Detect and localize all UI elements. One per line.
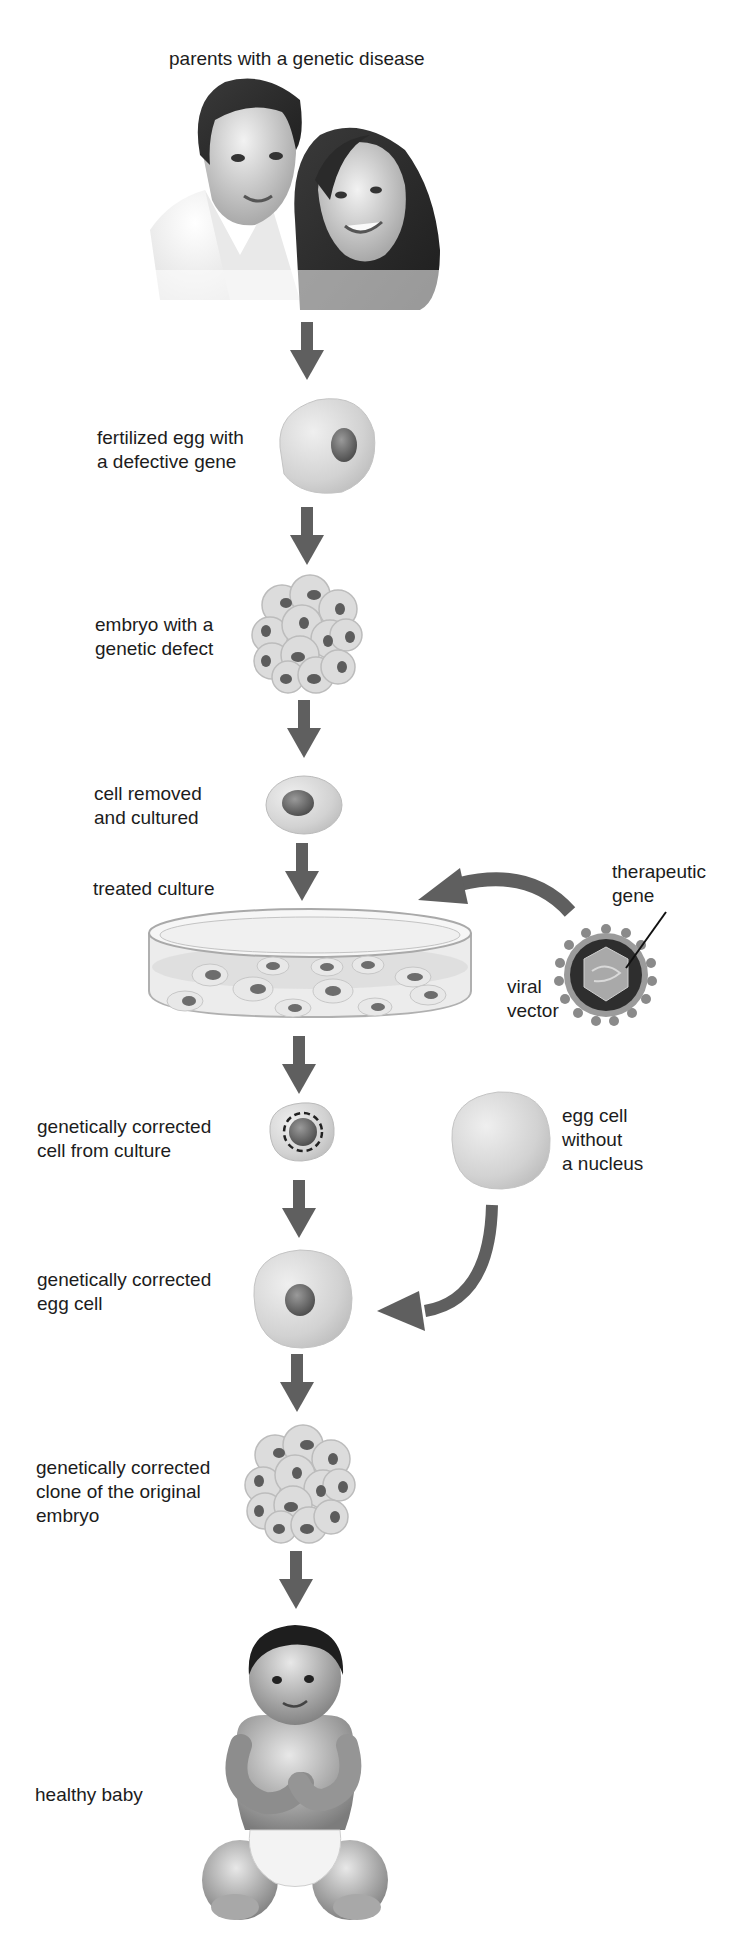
baby-portrait-icon <box>195 1615 395 1925</box>
step-label-healthy-baby: healthy baby <box>35 1783 143 1807</box>
step-label-embryo-defect: embryo with a genetic defect <box>95 613 213 661</box>
single-cell-icon <box>264 773 344 837</box>
down-arrow-icon <box>290 507 324 565</box>
enucleated-egg-label: egg cell without a nucleus <box>562 1104 643 1176</box>
step-label-corrected-cell: genetically corrected cell from culture <box>37 1115 211 1163</box>
egg-cell-with-nucleus-icon <box>272 392 382 497</box>
embryo-cluster-icon <box>245 1425 353 1540</box>
down-arrow-icon <box>279 1551 313 1609</box>
enucleated-egg-cell-icon <box>448 1088 554 1192</box>
step-label-treated-culture: treated culture <box>93 877 214 901</box>
cell-with-dashed-nucleus-icon <box>266 1100 338 1164</box>
down-arrow-icon <box>290 322 324 380</box>
therapeutic-gene-pointer-line <box>618 910 678 970</box>
curved-arrow-icon <box>410 862 570 942</box>
step-label-cell-removed: cell removed and cultured <box>94 782 202 830</box>
curved-arrow-icon <box>375 1205 505 1345</box>
down-arrow-icon <box>285 843 319 901</box>
viral-vector-label: viral vector <box>507 975 559 1023</box>
step-label-fertilized-egg: fertilized egg with a defective gene <box>97 426 244 474</box>
down-arrow-icon <box>287 700 321 758</box>
step-label-corrected-clone: genetically corrected clone of the origi… <box>36 1456 210 1528</box>
egg-cell-with-nucleus-icon <box>248 1246 356 1352</box>
down-arrow-icon <box>282 1180 316 1238</box>
down-arrow-icon <box>280 1354 314 1412</box>
therapeutic-gene-label: therapeutic gene <box>612 860 706 908</box>
down-arrow-icon <box>282 1036 316 1094</box>
embryo-cluster-icon <box>252 575 362 690</box>
step-label-corrected-egg: genetically corrected egg cell <box>37 1268 211 1316</box>
parents-portrait-icon <box>0 0 736 330</box>
